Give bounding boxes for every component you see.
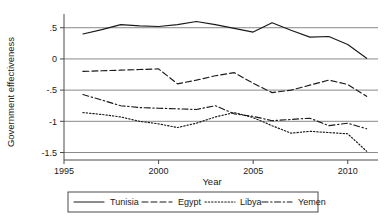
gridlines [64, 28, 378, 153]
y-tick-label: -.5 [46, 85, 57, 95]
legend-label-tunisia: Tunisia [110, 197, 139, 207]
legend-label-egypt: Egypt [178, 197, 202, 207]
chart-container: .50-.5-1-1.5 1995200020052010 Government… [0, 0, 387, 224]
series-line-tunisia [83, 21, 367, 58]
y-tick-label: .5 [49, 23, 57, 33]
y-axis-title: Government effectiveness [5, 37, 16, 147]
x-axis-tick-labels: 1995200020052010 [54, 166, 358, 176]
x-tick-label: 2005 [243, 166, 263, 176]
data-series [83, 21, 367, 151]
line-chart: .50-.5-1-1.5 1995200020052010 Government… [0, 0, 387, 224]
x-tick-label: 2010 [338, 166, 358, 176]
legend: TunisiaEgyptLibyaYemen [68, 192, 326, 212]
series-line-yemen [83, 94, 367, 128]
y-axis-tick-labels: .50-.5-1-1.5 [41, 23, 57, 158]
x-tick-label: 1995 [54, 166, 74, 176]
tick-marks [60, 28, 348, 164]
x-tick-label: 2000 [149, 166, 169, 176]
series-line-libya [83, 113, 367, 152]
legend-label-libya: Libya [240, 197, 262, 207]
axes [64, 14, 378, 160]
legend-label-yemen: Yemen [298, 197, 326, 207]
y-tick-label: 0 [52, 54, 57, 64]
x-axis-title: Year [202, 176, 221, 187]
y-tick-label: -1 [49, 117, 57, 127]
y-tick-label: -1.5 [41, 148, 57, 158]
series-line-egypt [83, 69, 367, 96]
